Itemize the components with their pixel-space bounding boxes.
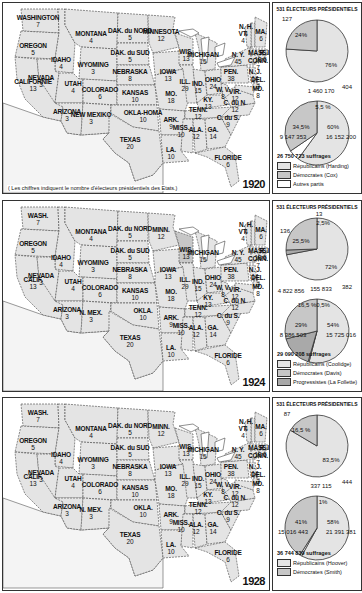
state-label-ala: ALA.12 — [189, 325, 203, 338]
state-votes: 8 — [216, 93, 230, 100]
electoral-count-republican: 404 — [342, 84, 352, 90]
state-name: TEXAS — [120, 334, 141, 341]
state-name: N. MEX. — [80, 506, 103, 513]
state-label-wyoming: WYOMING3 — [77, 62, 108, 75]
state-name: MINN. — [152, 423, 169, 430]
state-name: IOWA — [160, 463, 177, 470]
state-name: WYOMING — [77, 456, 108, 463]
state-votes: 12 — [189, 133, 203, 140]
state-label-vir: VIR.12 — [229, 484, 241, 497]
state-label-wv: W. V.8 — [216, 482, 230, 495]
state-name: ILL. — [180, 78, 191, 85]
state-label-ind: IND.15 — [192, 476, 204, 489]
state-label-vt: VT.4 — [239, 31, 248, 44]
legend: Républicains (Coolidge)Démocrates (Davis… — [277, 359, 357, 386]
total-votes: 36 744 839 suffrages — [277, 550, 331, 556]
state-votes: 12 — [224, 501, 247, 508]
legend-label: Progressistes (La Follette) — [293, 379, 357, 385]
state-votes: 12 — [143, 35, 180, 42]
popular-percent-other: 5,5 % — [315, 104, 330, 110]
state-label-vt: VT.4 — [239, 426, 248, 439]
state-name: IND. — [192, 475, 204, 482]
state-name: C. du S. — [217, 312, 240, 319]
state-name: FLORIDE — [214, 549, 241, 556]
state-label-newmexico: NEW MEXIKO3 — [71, 112, 112, 125]
state-votes: 3 — [28, 476, 54, 483]
state-label-ala: ALA.12 — [189, 522, 203, 535]
state-name: NEVADA — [28, 272, 54, 279]
state-label-ala: ALA.12 — [189, 127, 203, 140]
state-votes: 18 — [165, 97, 177, 104]
state-name: MA. — [255, 226, 266, 233]
map: WASH.7OREGON5CALIF.13IDAHO4NEVADA3MONTAN… — [2, 200, 270, 392]
state-name: IDAHO — [51, 254, 71, 261]
state-votes: 10 — [166, 153, 176, 160]
state-votes: 10 — [173, 131, 190, 138]
state-label-miss: MISS.10 — [173, 125, 190, 138]
state-name: LA. — [166, 344, 176, 351]
state-name: PEN. — [224, 463, 238, 470]
state-votes: 6 — [82, 93, 118, 100]
state-name: MICHIGAN — [187, 51, 218, 58]
state-label-arizona: ARIZONA3 — [53, 504, 81, 517]
legend-swatch-democrat — [277, 171, 291, 179]
state-name: OREGON — [19, 437, 47, 444]
state-label-wyoming: WYOMING3 — [77, 260, 108, 273]
state-name: MD. — [252, 283, 263, 290]
state-votes: 3 — [28, 81, 54, 88]
state-label-ind: IND.15 — [192, 279, 204, 292]
state-votes: 38 — [224, 75, 238, 82]
state-name: ARIZONA — [53, 306, 81, 313]
state-votes: 12 — [224, 304, 247, 311]
state-votes: 15 — [192, 285, 204, 292]
state-label-ny: N. Y.45 — [232, 447, 245, 460]
state-votes: 5 — [260, 56, 270, 63]
popular-votes-republican: 21 391 381 — [326, 529, 356, 535]
state-name: N. Y. — [232, 249, 245, 256]
legend-swatch-republican — [277, 162, 291, 170]
legend-swatch-democrat — [277, 369, 291, 377]
state-votes: 12 — [189, 331, 203, 338]
electoral-title: 531 ÉLECTEURS PRÉSIDENTIELS — [273, 6, 361, 12]
state-name: VT. — [239, 228, 248, 235]
state-label-ndak: DAK. du NORD5 — [108, 423, 152, 436]
state-label-iowa: IOWA13 — [160, 464, 177, 477]
state-name: ARIZONA — [53, 503, 81, 510]
state-name: KY. — [203, 96, 213, 103]
popular-percent-republican: 54% — [327, 322, 339, 328]
state-votes: 10 — [122, 294, 148, 301]
electoral-percent-progressive: 2,5% — [316, 220, 330, 226]
state-label-wash: WASHINGTON7 — [17, 15, 60, 28]
state-votes: 12 — [152, 233, 169, 240]
state-name: WASHINGTON — [17, 14, 60, 21]
state-name: C. du S. — [217, 509, 240, 516]
state-name: OREGON — [19, 42, 47, 49]
legend-item-republican: Républicains (Hoover) — [277, 558, 347, 567]
state-votes: 10 — [122, 96, 148, 103]
state-label-utah: UTAH4 — [65, 81, 82, 94]
state-name: ARK. — [163, 314, 178, 321]
state-name: DAK. du SUD — [111, 49, 150, 56]
state-votes: 4 — [51, 63, 71, 70]
state-label-sc: C. du S.9 — [217, 510, 240, 523]
state-name: VIR. — [229, 483, 241, 490]
state-votes: 9 — [217, 516, 240, 523]
state-label-montana: MONTANA4 — [75, 426, 106, 439]
state-name: N. Y. — [232, 51, 245, 58]
state-votes: 12 — [224, 106, 247, 113]
popular-votes-democrat: 15 016 443 — [278, 529, 308, 535]
state-label-nebraska: NEBRASKA8 — [112, 267, 147, 280]
state-votes: 4 — [239, 37, 248, 44]
state-name: R. I. — [260, 444, 270, 451]
state-name: KY. — [203, 491, 213, 498]
state-label-oregon: OREGON5 — [19, 241, 47, 254]
state-name: UTAH — [65, 475, 82, 482]
state-name: DAK. du SUD — [111, 247, 150, 254]
state-votes: 13 — [160, 75, 177, 82]
state-label-idaho: IDAHO4 — [51, 57, 71, 70]
state-name: DAK. du NORD — [108, 422, 152, 429]
state-votes: 4 — [51, 261, 71, 268]
state-votes: 6 — [82, 488, 118, 495]
state-votes: 7 — [17, 21, 60, 28]
state-votes: 29 — [180, 85, 191, 92]
